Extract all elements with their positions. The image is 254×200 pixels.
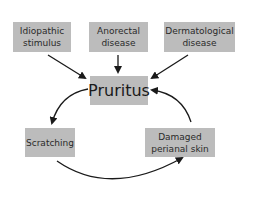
cause-label: Idiopathic stimulus [13, 25, 71, 49]
cause-label: Dermatological disease [164, 25, 235, 49]
scratching-label: Scratching [26, 137, 74, 149]
arrow-pruritus-to-scratching [52, 89, 88, 123]
cause-label: Anorectal disease [89, 25, 148, 49]
arrow-damaged-to-pruritus [152, 90, 191, 122]
arrow-scratching-to-damaged [57, 158, 182, 179]
pruritus-node: Pruritus [90, 76, 148, 105]
cause-idiopathic-stimulus: Idiopathic stimulus [13, 22, 71, 52]
scratching-node: Scratching [25, 128, 75, 157]
arrow-dermatological-to-pruritus [152, 55, 188, 78]
damaged-skin-label: Damaged perianal skin [145, 131, 215, 155]
arrow-idiopathic-to-pruritus [48, 55, 85, 78]
pruritus-label: Pruritus [88, 85, 150, 97]
cause-anorectal-disease: Anorectal disease [89, 22, 148, 52]
damaged-skin-node: Damaged perianal skin [145, 128, 215, 157]
cause-dermatological-disease: Dermatological disease [164, 22, 235, 52]
